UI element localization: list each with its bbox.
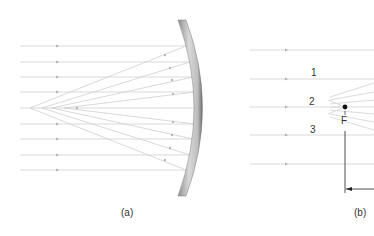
panel-b-caption: (b) [354,207,366,218]
arrow-markers-b [285,49,288,166]
focal-point-dot [343,105,348,110]
ray-label-1: 1 [311,67,317,78]
focal-point-label: F [341,115,347,126]
ray-label-3: 3 [310,124,316,135]
ray-label-2: 2 [309,96,315,107]
dimension-arrowhead-icon [346,187,352,191]
focal-rays-b [328,83,374,130]
optics-diagram [0,0,374,236]
panel-a [20,20,203,196]
panel-a-caption: (a) [121,207,133,218]
incident-rays-a [20,46,196,170]
